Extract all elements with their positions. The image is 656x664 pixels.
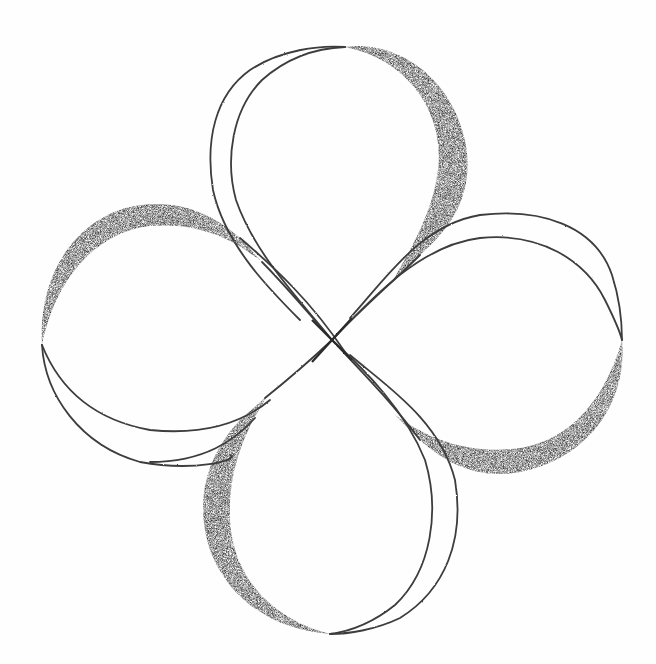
bottom-petal-outer-line <box>330 355 458 634</box>
four-petal-knot-drawing <box>0 0 656 664</box>
drawing-canvas: Pencil drawing of a four-petal clover-li… <box>0 0 656 664</box>
bottom-petal-shade <box>203 395 330 634</box>
left-petal-inner-line <box>42 345 270 431</box>
left-petal-shade <box>42 204 262 345</box>
bottom-petal-left-line <box>265 340 332 398</box>
left-petal-outer-line <box>42 345 231 466</box>
top-petal-inner-line <box>231 47 345 340</box>
bottom-petal-inner-line <box>330 340 432 634</box>
right-petal-outer-line <box>350 213 622 340</box>
right-petal-shade <box>395 340 623 474</box>
center-crossing <box>312 318 352 362</box>
